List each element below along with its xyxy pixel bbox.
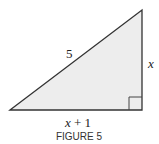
horizontal-leg-constant: + 1: [71, 115, 91, 130]
right-triangle: [10, 10, 142, 110]
figure-diagram: 5 x x + 1 FIGURE 5: [0, 0, 159, 144]
figure-caption: FIGURE 5: [56, 131, 103, 142]
hypotenuse-label: 5: [66, 46, 73, 61]
vertical-leg-label: x: [147, 56, 154, 71]
horizontal-leg-label: x + 1: [64, 115, 91, 130]
